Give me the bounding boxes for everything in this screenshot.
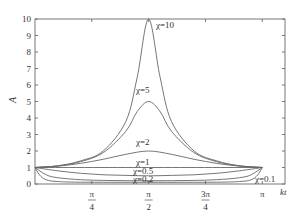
label-chi5: χ=5	[135, 85, 150, 95]
y-tick-label: 7	[27, 64, 32, 74]
y-tick-label: 4	[27, 113, 32, 123]
label-chi02: χ=0.2	[132, 174, 153, 184]
y-tick-label: 0	[27, 179, 32, 189]
x-axis-label: kt	[280, 187, 287, 197]
plot-frame	[35, 19, 285, 184]
label-chi01: χ=0.1	[254, 174, 275, 184]
y-tick-label: 2	[27, 146, 32, 156]
plot-svg: 012345678910π4π23π4π χ=10 χ=5 χ=2 χ=1 χ=…	[0, 0, 301, 217]
label-chi10: χ=10	[155, 20, 175, 30]
x-tick-denominator: 4	[90, 202, 95, 212]
y-tick-label: 6	[27, 80, 32, 90]
y-tick-label: 8	[27, 47, 32, 57]
y-tick-label: 5	[27, 97, 32, 107]
x-tick-denominator: 2	[146, 202, 151, 212]
chart: 012345678910π4π23π4π χ=10 χ=5 χ=2 χ=1 χ=…	[0, 0, 301, 217]
x-tick-numerator: π	[90, 189, 95, 199]
x-tick-label: π	[260, 189, 265, 199]
x-tick-denominator: 4	[203, 202, 208, 212]
y-tick-label: 9	[27, 31, 32, 41]
x-tick-numerator: π	[146, 189, 151, 199]
y-tick-label: 1	[27, 163, 32, 173]
x-tick-numerator: 3π	[201, 189, 211, 199]
y-axis-label: A	[7, 96, 18, 104]
label-chi2: χ=2	[135, 137, 150, 147]
y-tick-label: 10	[22, 14, 32, 24]
y-tick-label: 3	[27, 130, 32, 140]
